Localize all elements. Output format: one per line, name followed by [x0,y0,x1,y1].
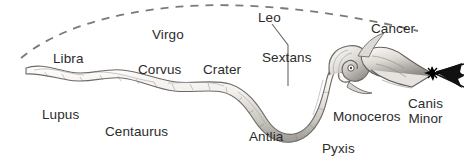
label-sextans: Sextans [262,51,311,65]
label-antlia: Antlia [249,130,283,144]
label-centaurus: Centaurus [105,125,168,139]
label-canis-minor-line1: Canis [408,96,443,111]
label-monoceros: Monoceros [333,110,401,124]
label-leo: Leo [258,11,281,25]
label-canis-minor-line2: Minor [408,111,443,126]
hydra-serpent-body [26,63,354,142]
label-libra: Libra [53,52,84,66]
constellation-figure: Libra Virgo Corvus Crater Leo Sextans Ca… [0,0,464,166]
label-crater: Crater [203,63,241,77]
label-virgo: Virgo [152,28,184,42]
label-pyxis: Pyxis [322,142,355,156]
label-cancer: Cancer [371,22,415,36]
label-canis-minor: Canis Minor [408,96,443,126]
label-lupus: Lupus [42,108,79,122]
bright-star-burst [424,63,464,88]
label-corvus: Corvus [138,63,181,77]
